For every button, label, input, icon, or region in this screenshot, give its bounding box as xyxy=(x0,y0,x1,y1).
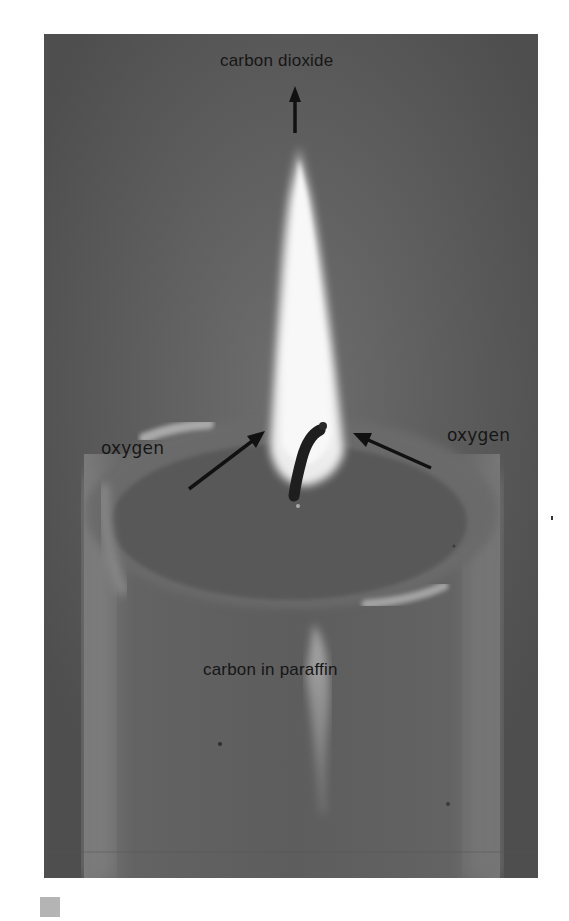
scan-speck xyxy=(551,516,553,520)
label-carbon-dioxide: carbon dioxide xyxy=(220,52,333,69)
label-oxygen-right: oxygen xyxy=(447,427,510,444)
candle-photo: carbon dioxide oxygen oxygen carbon in p… xyxy=(44,34,538,878)
wick-tip xyxy=(319,422,327,430)
label-carbon-in-paraffin: carbon in paraffin xyxy=(203,661,338,678)
figure-marker-square xyxy=(40,897,60,917)
label-oxygen-left: oxygen xyxy=(101,440,164,457)
